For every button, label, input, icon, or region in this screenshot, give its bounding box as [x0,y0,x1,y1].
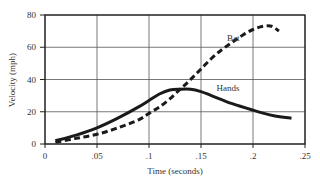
y-tick-label: 60 [27,42,37,52]
y-tick-label: 20 [27,107,37,117]
series-label-hands: Hands [217,83,240,93]
series-line-bat [55,26,279,143]
x-tick-label: .2 [250,151,257,161]
y-axis-label: Velocity (mph) [7,53,17,107]
x-tick-label: .1 [146,151,153,161]
y-axis-ticks: 020406080 [27,10,45,149]
y-tick-label: 80 [27,10,37,20]
x-tick-label: .15 [195,151,207,161]
x-tick-label: .05 [91,151,103,161]
y-tick-label: 40 [27,75,37,85]
x-axis-label: Time (seconds) [147,166,202,176]
series-labels: HandsBat [217,33,240,93]
x-tick-label: .25 [299,151,311,161]
series-lines [55,26,291,143]
velocity-chart: 0.05.1.15.2.25 020406080 HandsBat Time (… [0,0,320,188]
series-label-bat: Bat [227,33,240,43]
grid-lines [45,15,305,144]
y-tick-label: 0 [32,139,37,149]
x-tick-label: 0 [43,151,48,161]
x-axis-ticks: 0.05.1.15.2.25 [43,144,311,161]
